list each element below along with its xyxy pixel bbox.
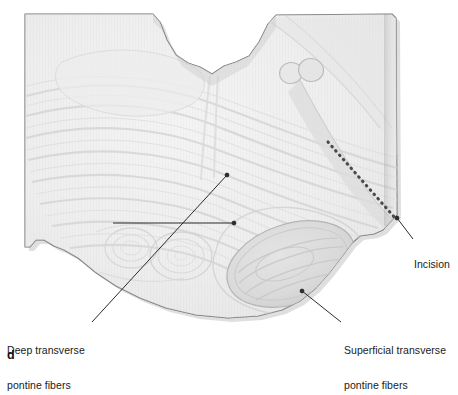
annotation-superficial-line2: pontine fibers bbox=[344, 380, 446, 392]
annotation-incision-line1: Incision bbox=[414, 259, 450, 271]
annotation-deep-transverse-pontine-fibers: Deep transverse pontine fibers bbox=[7, 322, 85, 395]
leader-incision bbox=[395, 216, 413, 239]
panel-letter: d bbox=[7, 348, 15, 362]
annotation-incision: Incision bbox=[414, 236, 450, 294]
annotation-superficial-transverse-pontine-fibers: Superficial transverse pontine fibers bbox=[344, 322, 446, 395]
annotation-deep-line2: pontine fibers bbox=[7, 380, 85, 392]
annotation-superficial-line1: Superficial transverse bbox=[344, 345, 446, 357]
leader-superficial bbox=[300, 289, 341, 322]
annotation-deep-line1: Deep transverse bbox=[7, 345, 85, 357]
